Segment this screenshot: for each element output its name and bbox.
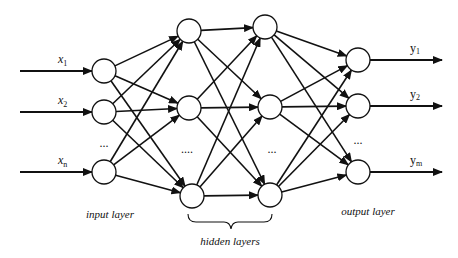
input-node-3 <box>92 160 116 184</box>
connection-edge <box>110 41 183 161</box>
connection-edge <box>282 106 346 107</box>
connection-edges <box>110 28 351 196</box>
hidden1-node-3 <box>180 184 204 208</box>
connection-edge <box>276 31 346 56</box>
output-label-1: y1 <box>410 41 420 56</box>
input-label-1: x1 <box>57 52 67 68</box>
connection-edge <box>282 175 347 192</box>
hidden-layers-brace <box>188 214 272 229</box>
output-node-1 <box>346 48 370 72</box>
ellipsis-marker: .... <box>181 142 193 156</box>
connection-edge <box>201 28 253 31</box>
input-node-1 <box>92 59 116 83</box>
hidden1-node-2 <box>177 96 201 120</box>
hidden-layers-caption: hidden layers <box>200 235 260 247</box>
connection-edge <box>111 81 185 186</box>
input-label-3: xn <box>57 153 67 169</box>
connection-edge <box>194 42 264 184</box>
connection-edge <box>113 39 181 103</box>
output-label-2: y2 <box>410 87 420 102</box>
ellipsis-marker: ... <box>100 136 109 150</box>
ellipsis-marker: ... <box>354 133 363 147</box>
input-layer-caption: input layer <box>86 208 135 220</box>
connection-edge <box>204 195 258 196</box>
output-layer-caption: output layer <box>341 205 395 217</box>
output-label-3: ym <box>410 153 423 168</box>
connection-edge <box>281 66 348 102</box>
connection-edge <box>116 175 181 193</box>
connection-edge <box>278 115 349 187</box>
hidden1-node-1 <box>177 19 201 43</box>
input-node-2 <box>92 100 116 124</box>
connection-edge <box>197 38 260 185</box>
ellipsis-marker: ... <box>268 142 277 156</box>
neural-network-diagram: x1x2xny1y2ym ............. input layer h… <box>0 0 458 258</box>
connection-edge <box>277 70 352 185</box>
output-node-2 <box>346 94 370 118</box>
input-label-2: x2 <box>57 93 67 109</box>
connection-edge <box>116 109 177 112</box>
hidden2-node-1 <box>253 15 277 39</box>
output-node-3 <box>346 160 370 184</box>
hidden2-node-3 <box>258 183 282 207</box>
hidden2-node-2 <box>258 95 282 119</box>
